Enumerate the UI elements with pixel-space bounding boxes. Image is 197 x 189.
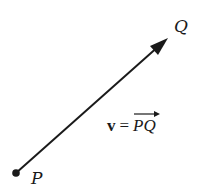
vector-pq-text: PQ — [133, 116, 156, 135]
vector-name: v — [107, 116, 116, 135]
vector-diagram — [0, 0, 197, 189]
point-p-dot — [12, 169, 20, 177]
point-p-label: P — [31, 170, 42, 187]
point-q-label: Q — [174, 18, 188, 35]
vector-pq: PQ — [133, 117, 156, 134]
equals-sign: = — [120, 116, 130, 135]
overarrow-icon — [133, 110, 161, 118]
vector-line — [16, 45, 160, 173]
vector-formula: v=PQ — [107, 117, 156, 134]
